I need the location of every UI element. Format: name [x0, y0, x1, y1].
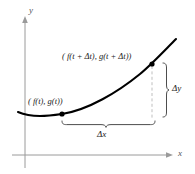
delta-x-label: Δx — [97, 130, 106, 139]
delta-y-brace — [163, 63, 169, 117]
lower-point-label: ( f(t), g(t)) — [28, 97, 63, 106]
x-axis-label: x — [178, 149, 182, 158]
parametric-curve-diagram: y x ( f(t + Δt), g(t + Δt)) ( f(t), g(t)… — [0, 0, 195, 174]
delta-x-brace — [62, 121, 155, 127]
delta-y-label: Δy — [172, 84, 181, 93]
y-axis-arrowhead — [22, 16, 28, 23]
point-lower-marker — [59, 111, 64, 116]
upper-point-label: ( f(t + Δt), g(t + Δt)) — [62, 52, 131, 61]
x-axis-arrowhead — [166, 152, 173, 158]
y-axis-label: y — [29, 6, 33, 15]
diagram-canvas — [0, 0, 195, 174]
point-upper-marker — [149, 61, 154, 66]
